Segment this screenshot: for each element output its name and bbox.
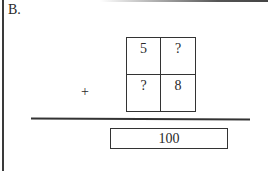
grid-cell-top-right: ? — [161, 38, 195, 75]
left-border-line — [2, 0, 4, 171]
grid-cell-top-left: 5 — [127, 38, 161, 75]
plus-operator: + — [81, 84, 89, 100]
grid-cell-bottom-left: ? — [127, 75, 161, 112]
sum-rule-line — [31, 117, 250, 120]
problem-label: B. — [8, 2, 21, 18]
grid-cell-bottom-right: 8 — [161, 75, 195, 112]
number-grid: 5 ? ? 8 — [126, 37, 196, 112]
result-box: 100 — [110, 128, 228, 149]
top-border-line — [100, 0, 268, 2]
